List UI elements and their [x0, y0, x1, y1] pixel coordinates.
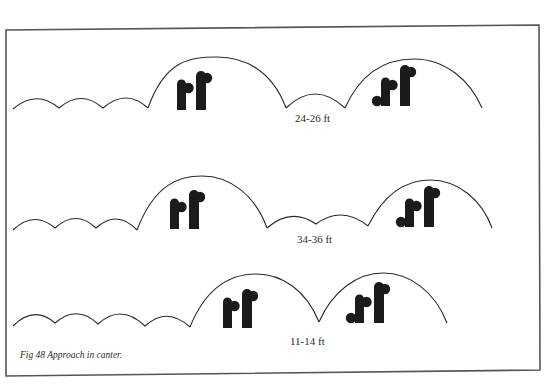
jump-arc-1	[137, 176, 267, 230]
distance-label: 24-26 ft	[295, 112, 330, 124]
row-3: 11-14 ft	[13, 273, 447, 347]
spread-jump-icon	[372, 65, 416, 106]
figure-caption: Fig 48 Approach in canter.	[19, 350, 122, 360]
row-1: 24-26 ft	[13, 57, 482, 124]
distance-label: 11-14 ft	[290, 335, 325, 347]
vertical-jump-icon	[223, 289, 258, 328]
row-2: 34-36 ft	[13, 176, 492, 245]
approach-in-canter-diagram: 24-26 ft 34-36 ft 11-14 ft Fig 48 Approa…	[0, 0, 558, 390]
approach-strides	[13, 219, 137, 231]
jump-arc-2	[345, 59, 482, 108]
distance-label: 34-36 ft	[297, 233, 332, 245]
vertical-jump-icon	[177, 71, 212, 110]
spread-jump-icon	[346, 282, 390, 323]
approach-strides	[13, 314, 190, 327]
spread-jump-icon	[396, 186, 440, 227]
approach-strides	[13, 98, 148, 109]
vertical-jump-icon	[170, 190, 205, 229]
jump-arc-1	[148, 57, 286, 108]
figure-frame	[6, 25, 540, 376]
between-fence-strides	[267, 215, 368, 228]
between-fence-stride	[286, 94, 345, 108]
